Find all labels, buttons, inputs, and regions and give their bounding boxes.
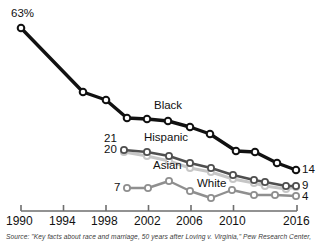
- series-annotation-hispanic: Hispanic: [144, 132, 188, 144]
- start-value-label-black: 63%: [11, 8, 34, 20]
- source-note: Source: "Key facts about race and marria…: [6, 233, 311, 240]
- start-value-label-asian: 20: [104, 144, 117, 156]
- end-value-label-black: 14: [302, 164, 315, 176]
- series-annotation-white: White: [197, 178, 226, 190]
- x-tick-label-1990: 1990: [6, 215, 33, 227]
- start-value-label-white: 7: [114, 182, 120, 194]
- chart-container: 63% 21 20 7 14 9 4 Black Hispanic Asian …: [0, 0, 324, 248]
- x-tick-label-1994: 1994: [49, 215, 76, 227]
- x-tick-label-1998: 1998: [91, 215, 118, 227]
- x-tick-label-2010: 2010: [219, 215, 246, 227]
- x-tick-label-2002: 2002: [134, 215, 161, 227]
- end-value-label-white: 4: [302, 191, 308, 203]
- x-tick-label-2006: 2006: [176, 215, 203, 227]
- x-axis: [21, 205, 297, 211]
- series-annotation-black: Black: [154, 100, 182, 112]
- x-tick-label-2016: 2016: [283, 215, 310, 227]
- line-chart-plot: [0, 0, 324, 248]
- series-annotation-asian: Asian: [153, 160, 182, 172]
